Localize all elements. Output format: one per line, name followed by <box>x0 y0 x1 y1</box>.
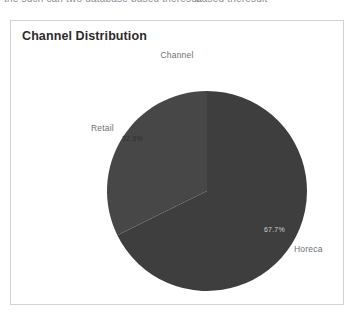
pie-slice-value-retail: 32.3% <box>122 135 143 142</box>
pie-svg <box>11 21 343 304</box>
pie-chart: Channel 32.3% 67.7% Retail Horeca <box>11 21 343 304</box>
pie-category-label-horeca: Horeca <box>294 244 323 254</box>
channel-distribution-card: Channel Distribution Channel 32.3% 67.7%… <box>10 20 344 305</box>
clipped-top-text-right: based theresult <box>196 0 267 4</box>
pie-slice-value-horeca: 67.7% <box>264 226 285 233</box>
clipped-top-text-left: the such can two database based theresul… <box>4 0 202 4</box>
pie-canvas: 32.3% 67.7% Retail Horeca <box>11 21 343 304</box>
clipped-top-text-strip: the such can two database based theresul… <box>0 0 358 7</box>
pie-category-label-retail: Retail <box>91 123 114 133</box>
